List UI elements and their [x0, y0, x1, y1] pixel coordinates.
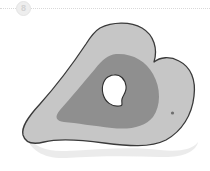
marker-dot: [171, 111, 174, 114]
anatomical-blob-diagram: [0, 0, 210, 171]
figure-page: 8: [0, 0, 210, 171]
